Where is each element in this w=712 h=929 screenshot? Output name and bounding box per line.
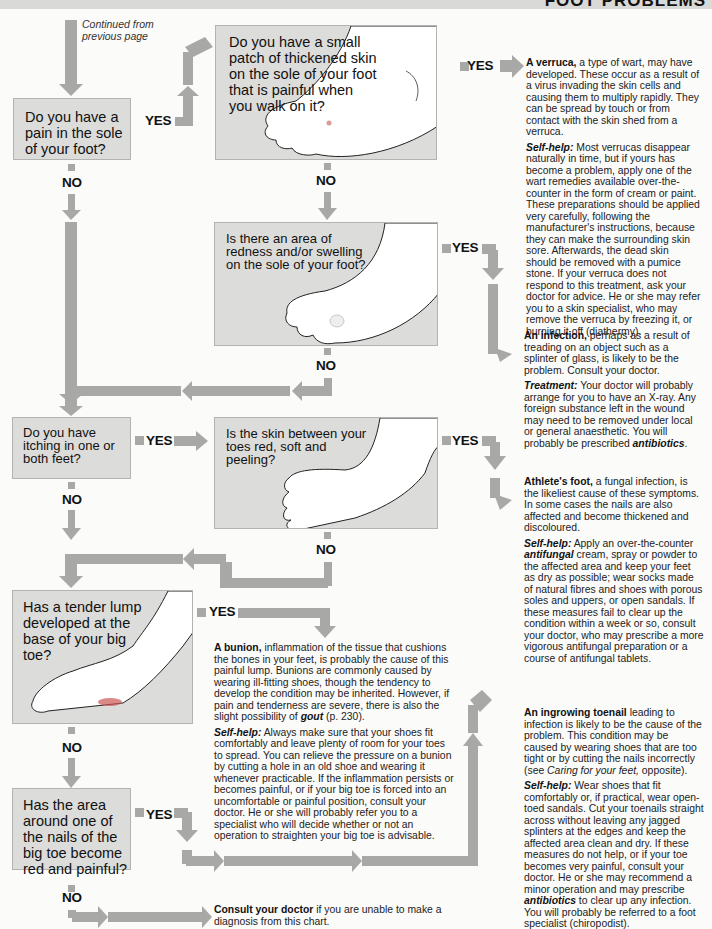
yes-label: YES [146,433,172,448]
no-label: NO [62,175,82,190]
no-label: NO [62,890,82,905]
question-box-skin-between-toes: Is the skin between your toes red, soft … [214,417,438,529]
selfhelp-pre: Apply an over-the-counter [571,538,693,549]
selfhelp-text: cream, spray or powder to the affected a… [524,549,704,664]
no-label: NO [316,358,336,373]
yes-label: YES [146,807,172,822]
selfhelp-label: Self-help: [526,142,573,153]
body-emphasis: Caring for your feet, [547,765,639,776]
answer-athletes-foot: Athlete's foot, a fungal infection, is t… [524,476,704,668]
answer-bunion: A bunion, inflammation of the tissue tha… [214,642,454,846]
no-label: NO [316,173,336,188]
continued-line-1: Continued from [82,18,154,30]
answer-title: Athlete's foot, [524,476,593,487]
answer-title: A bunion, [214,642,262,653]
yes-label: YES [467,58,493,73]
question-box-tender-lump: Has a tender lump developed at the base … [12,590,193,724]
body-emphasis: gout [301,711,324,722]
question-box-sole-pain: Do you have a pain in the sole of your f… [13,98,131,160]
question-text: Has the area around one of the nails of … [23,797,131,877]
selfhelp-emphasis: antifungal [524,549,574,560]
selfhelp-text: Wear shoes that fit comfortably or, if p… [524,780,704,895]
selfhelp-emphasis: antibiotics [524,895,576,906]
continued-note: Continued from previous page [82,18,154,42]
answer-title: An ingrowing toenail [524,707,627,718]
selfhelp-text: Most verrucas disappear naturally in tim… [526,142,700,337]
answer-title: Consult your doctor [214,904,313,915]
continued-line-2: previous page [82,30,154,42]
selfhelp-label: Self-help: [524,780,571,791]
answer-title: A verruca, [526,57,576,68]
no-label: NO [62,740,82,755]
answer-verruca: A verruca, a type of wart, may have deve… [526,57,702,341]
treatment-label: Treatment: [524,380,578,391]
question-text: Do you have itching in one or both feet? [23,426,123,465]
no-label: NO [316,542,336,557]
question-text: Is the skin between your toes red, soft … [226,427,376,466]
selfhelp-text: Always make sure that your shoes fit com… [214,727,454,842]
answer-title: An infection, [524,330,587,341]
question-text: Do you have a pain in the sole of your f… [25,109,125,157]
answer-body: inflammation of the tissue that cushions… [214,642,449,722]
question-box-redness-swelling: Is there an area of redness and/or swell… [214,222,438,346]
treatment-emphasis: antibiotics [633,438,685,449]
answer-consult: Consult your doctor if you are unable to… [214,904,464,929]
question-text: Has a tender lump developed at the base … [23,599,143,663]
question-box-itching: Do you have itching in one or both feet? [12,417,131,479]
selfhelp-label: Self-help: [524,538,571,549]
answer-body: a type of wart, may have developed. Thes… [526,57,699,137]
body-end: (p. 230). [323,711,365,722]
question-box-toenail: Has the area around one of the nails of … [12,788,131,870]
body-end: opposite). [639,765,688,776]
selfhelp-label: Self-help: [214,727,261,738]
question-text: Is there an area of redness and/or swell… [226,232,376,271]
answer-toenail: An ingrowing toenail leading to infectio… [524,707,704,929]
question-box-thickened-skin: Do you have a small patch of thickened s… [215,25,437,160]
yes-label: YES [145,113,171,128]
question-text: Do you have a small patch of thickened s… [229,34,379,114]
yes-label: YES [452,240,478,255]
yes-label: YES [452,433,478,448]
no-label: NO [62,492,82,507]
treatment-end: . [685,438,688,449]
yes-label: YES [209,604,235,619]
answer-infection: An infection, perhaps as a result of tre… [524,330,704,453]
